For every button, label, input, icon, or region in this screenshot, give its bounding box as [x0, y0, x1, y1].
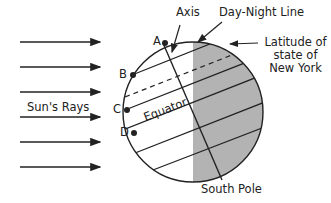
point-a	[162, 40, 168, 46]
latitude-label-line3: New York	[258, 62, 331, 75]
point-c-label: C	[113, 103, 121, 116]
latitude-pointer-arrow	[230, 43, 258, 44]
day-night-pointer-arrow	[198, 22, 222, 42]
point-b	[130, 72, 136, 78]
axis-pointer-arrow	[172, 25, 180, 52]
point-b-label: B	[119, 68, 127, 81]
point-a-label: A	[153, 35, 161, 48]
south-pole-label: South Pole	[201, 183, 262, 196]
point-d	[131, 130, 137, 136]
axis-label: Axis	[176, 6, 200, 19]
latitude-label: Latitude of state of New York	[258, 36, 331, 76]
point-d-label: D	[120, 126, 129, 139]
suns-rays-label: Sun's Rays	[27, 101, 89, 114]
point-c	[124, 107, 130, 113]
day-night-line-label: Day-Night Line	[219, 6, 304, 19]
